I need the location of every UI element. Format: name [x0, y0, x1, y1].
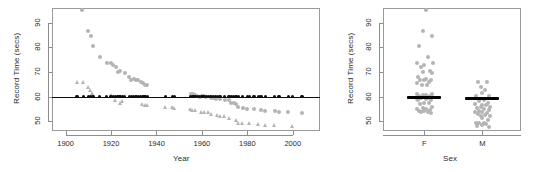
- left-x-tick: [202, 131, 203, 135]
- record-time-point-f: [420, 83, 424, 87]
- reference-point-60: [259, 95, 262, 98]
- right-y-tick-label: 90: [364, 14, 373, 30]
- female-record-point: [286, 110, 290, 114]
- left-y-tick: [48, 47, 52, 48]
- left-x-tick-label: 1940: [142, 139, 170, 148]
- left-y-tick-label: 90: [33, 14, 42, 30]
- left-y-tick-label: 50: [33, 113, 42, 129]
- left-x-tick: [66, 131, 67, 135]
- record-time-point-m: [485, 80, 489, 84]
- left-x-tick: [293, 131, 294, 135]
- left-x-tick-label: 1980: [233, 139, 261, 148]
- right-y-tick: [379, 121, 383, 122]
- female-record-point: [300, 111, 304, 115]
- record-time-point-f: [429, 111, 433, 115]
- reference-point-60: [252, 95, 255, 98]
- record-time-point-f: [421, 70, 425, 74]
- record-time-point-f: [430, 34, 434, 38]
- female-record-point: [91, 44, 95, 48]
- record-time-point-f: [415, 81, 419, 85]
- male-record-point: [163, 105, 167, 109]
- male-record-point: [227, 116, 231, 120]
- record-time-point-m: [475, 124, 479, 128]
- male-record-point: [263, 123, 267, 127]
- right-y-tick-label: 60: [364, 88, 373, 104]
- left-x-tick: [156, 131, 157, 135]
- right-y-tick: [379, 72, 383, 73]
- figure-canvas: 5060708090 190019201940196019802000 Reco…: [0, 0, 539, 172]
- reference-point-60: [91, 95, 94, 98]
- male-record-point: [172, 106, 176, 110]
- reference-point-60: [277, 95, 280, 98]
- right-x-axis-line: [383, 135, 521, 136]
- female-record-point: [273, 109, 277, 113]
- male-record-point: [202, 110, 206, 114]
- female-record-point: [114, 65, 118, 69]
- male-record-point: [256, 122, 260, 126]
- left-y-tick: [48, 121, 52, 122]
- record-time-point-m: [483, 113, 487, 117]
- male-record-point: [209, 112, 213, 116]
- male-record-point: [193, 108, 197, 112]
- left-x-tick-label: 1900: [52, 139, 80, 148]
- female-record-point: [89, 34, 93, 38]
- female-record-point: [223, 98, 227, 102]
- male-record-point: [222, 114, 226, 118]
- male-record-point: [218, 114, 222, 118]
- reference-point-60: [218, 95, 221, 98]
- record-time-point-f: [421, 29, 425, 33]
- male-record-point: [90, 91, 94, 95]
- left-x-tick-label: 1960: [188, 139, 216, 148]
- record-time-point-m: [487, 125, 491, 129]
- reference-point-60: [75, 95, 78, 98]
- left-x-axis-label: Year: [173, 154, 190, 163]
- left-y-tick-label: 60: [33, 88, 42, 104]
- female-record-point: [98, 55, 102, 59]
- reference-point-60: [300, 95, 303, 98]
- left-x-axis-line: [66, 135, 293, 136]
- right-y-tick-label: 50: [364, 113, 373, 129]
- male-record-point: [290, 124, 294, 128]
- female-record-point: [259, 108, 263, 112]
- right-y-tick-label: 80: [364, 39, 373, 55]
- male-record-point: [272, 123, 276, 127]
- left-x-tick: [247, 131, 248, 135]
- male-record-point: [240, 121, 244, 125]
- right-y-tick: [379, 23, 383, 24]
- male-record-point: [236, 121, 240, 125]
- record-time-point-f: [426, 55, 430, 59]
- male-record-point: [113, 98, 117, 102]
- left-x-tick: [111, 131, 112, 135]
- record-time-point-m: [479, 85, 483, 89]
- right-x-tick-m: [482, 131, 483, 135]
- right-y-tick-label: 70: [364, 63, 373, 79]
- right-y-axis-label: Record Time (secs): [346, 32, 355, 103]
- left-y-tick-label: 70: [33, 63, 42, 79]
- male-record-point: [120, 99, 124, 103]
- left-y-tick-label: 80: [33, 39, 42, 55]
- right-x-tick-label-m: M: [472, 139, 492, 148]
- left-x-tick-label: 2000: [279, 139, 307, 148]
- left-y-axis-label: Record Time (secs): [12, 32, 21, 103]
- right-plot-frame: [383, 8, 521, 131]
- male-record-point: [247, 121, 251, 125]
- male-record-point: [145, 103, 149, 107]
- record-time-point-f: [419, 65, 423, 69]
- left-y-tick: [48, 97, 52, 98]
- record-time-point-m: [483, 88, 487, 92]
- male-record-point: [75, 80, 79, 84]
- left-x-tick-label: 1920: [97, 139, 125, 148]
- median-bar-f: [407, 96, 441, 99]
- right-x-axis-label: Sex: [443, 154, 457, 163]
- left-y-tick: [48, 23, 52, 24]
- left-y-tick: [48, 72, 52, 73]
- right-y-tick: [379, 47, 383, 48]
- right-y-tick: [379, 97, 383, 98]
- right-x-tick-label-f: F: [414, 139, 434, 148]
- male-record-point: [81, 80, 85, 84]
- record-time-point-f: [417, 44, 421, 48]
- female-record-point: [241, 106, 245, 110]
- female-record-point: [105, 61, 109, 65]
- median-bar-m: [465, 97, 499, 100]
- right-x-tick-f: [424, 131, 425, 135]
